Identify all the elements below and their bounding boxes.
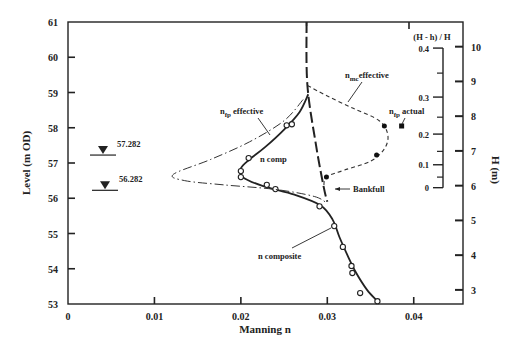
data-point-n-mc-effective: [382, 123, 387, 128]
annotations-layer: 57.28256.282nfp effectiven compnmceffect…: [90, 70, 425, 261]
x-axis-title: Manning n: [239, 323, 291, 335]
data-point-n-mc-effective: [324, 175, 329, 180]
series-line-n-composite: [240, 94, 378, 301]
data-point-n-composite: [350, 270, 355, 275]
data-point-n-composite: [238, 169, 243, 174]
leader-line: [402, 118, 405, 124]
annotation-n-comp: n comp: [260, 154, 287, 164]
right-tick-label: 4: [471, 250, 476, 261]
inner-axis-title: (H - h) / H: [413, 32, 451, 42]
water-level-triangle-icon: [100, 181, 110, 189]
data-point-n-composite: [358, 290, 363, 295]
y-tick-label: 59: [48, 88, 58, 99]
inner-tick-label: 0.2: [418, 130, 429, 140]
bankfull-arrowhead-icon: [335, 187, 340, 191]
data-point-n-composite: [238, 175, 243, 180]
y-tick-label: 56: [48, 193, 58, 204]
data-point-n-mc-effective: [374, 152, 379, 157]
y-axis-title: Level (m OD): [20, 131, 33, 195]
data-point-n-composite: [340, 244, 345, 249]
right-tick-label: 3: [471, 285, 476, 296]
right-y-axis-title: H (m): [489, 156, 502, 184]
data-point-n-composite: [332, 223, 337, 228]
data-point-n-composite: [349, 263, 354, 268]
y-tick-label: 54: [48, 264, 58, 275]
leader-line: [292, 228, 331, 248]
series-layer: [172, 22, 404, 304]
inner-tick-label: 0: [425, 183, 429, 193]
manning-n-chart: 00.010.020.030.0453545556575859606134567…: [0, 0, 516, 350]
series-line-main-channel-dashed: [306, 22, 327, 202]
x-tick-label: 0.03: [319, 311, 337, 322]
annotation-n-fp-actual: nfp actual: [389, 106, 425, 119]
right-tick-label: 5: [471, 215, 476, 226]
annotation-bankfull: Bankfull: [353, 184, 385, 194]
right-tick-label: 10: [471, 42, 481, 53]
series-line-n-mc-effective: [307, 85, 388, 187]
water-level-triangle-icon: [98, 146, 108, 154]
right-tick-label: 8: [471, 111, 476, 122]
data-point-n-composite: [273, 186, 278, 191]
leader-line: [348, 82, 362, 102]
data-point-n-composite: [289, 122, 294, 127]
y-tick-label: 60: [48, 52, 58, 63]
x-tick-label: 0.02: [232, 311, 250, 322]
data-point-n-composite: [375, 299, 380, 304]
right-tick-label: 9: [471, 76, 476, 87]
y-tick-label: 53: [48, 299, 58, 310]
data-point-n-fp-actual: [399, 123, 404, 128]
leader-line: [258, 118, 270, 135]
x-tick-label: 0.01: [146, 311, 164, 322]
y-tick-label: 57: [48, 158, 58, 169]
y-tick-label: 61: [48, 17, 58, 28]
y-tick-label: 55: [48, 229, 58, 240]
x-tick-label: 0: [66, 311, 71, 322]
right-tick-label: 6: [471, 181, 476, 192]
x-tick-label: 0.04: [405, 311, 423, 322]
water-level-label: 56.282: [119, 174, 142, 184]
data-point-n-composite: [246, 155, 251, 160]
annotation-n-fp-effective: nfp effective: [220, 106, 264, 119]
inner-tick-label: 0.3: [418, 93, 429, 103]
data-point-n-composite: [317, 204, 322, 209]
annotation-n-composite: n composite: [258, 251, 301, 261]
annotation-n-mc-effective: nmceffective: [345, 70, 389, 83]
y-tick-label: 58: [48, 123, 58, 134]
right-tick-label: 7: [471, 146, 476, 157]
axes: 00.010.020.030.0453545556575859606134567…: [48, 17, 481, 322]
inner-tick-label: 0.1: [418, 160, 429, 170]
water-level-label: 57.282: [117, 139, 140, 149]
data-point-n-composite: [264, 182, 269, 187]
data-point-n-composite: [284, 123, 289, 128]
inner-tick-label: 0.4: [418, 44, 429, 54]
